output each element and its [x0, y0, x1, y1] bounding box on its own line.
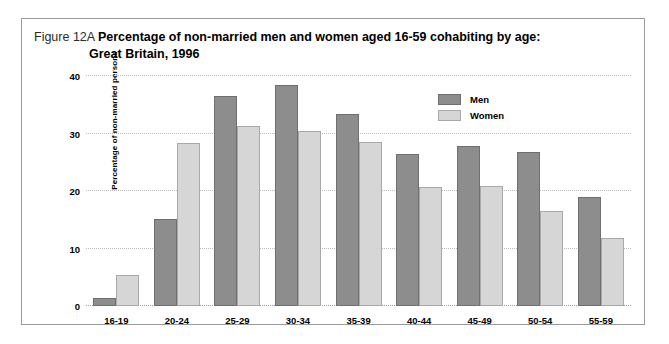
x-tick-label: 35-39 — [328, 315, 389, 326]
bar-men-35-39[interactable] — [336, 114, 359, 306]
bar-group: 16-19 — [86, 76, 147, 306]
legend-swatch-icon — [438, 110, 461, 121]
bar-group: 25-29 — [207, 76, 268, 306]
bar-group: 55-59 — [571, 76, 632, 306]
bar-men-30-34[interactable] — [275, 85, 298, 306]
bar-group: 30-34 — [268, 76, 329, 306]
bar-women-30-34[interactable] — [298, 131, 321, 306]
legend-label: Men — [470, 94, 489, 105]
bar-group: 50-54 — [510, 76, 571, 306]
bar-women-40-44[interactable] — [419, 187, 442, 306]
y-tick-label: 0 — [75, 301, 80, 312]
legend-swatch-icon — [438, 94, 461, 105]
y-tick-label: 10 — [69, 243, 80, 254]
x-tick-label: 55-59 — [571, 315, 632, 326]
figure-title-block: Figure 12A Percentage of non-married men… — [34, 29, 634, 63]
chart-legend: MenWomen — [438, 94, 504, 126]
y-tick-label: 30 — [69, 128, 80, 139]
x-tick-label: 40-44 — [389, 315, 450, 326]
bar-men-25-29[interactable] — [214, 96, 237, 306]
bar-men-16-19[interactable] — [93, 298, 116, 306]
figure-frame: Figure 12A Percentage of non-married men… — [21, 18, 645, 325]
x-tick-label: 20-24 — [147, 315, 208, 326]
bar-men-20-24[interactable] — [154, 219, 177, 306]
x-tick-label: 50-54 — [510, 315, 571, 326]
y-tick-label: 40 — [69, 71, 80, 82]
bar-men-55-59[interactable] — [578, 197, 601, 306]
bar-women-16-19[interactable] — [116, 275, 139, 306]
legend-item-women[interactable]: Women — [438, 110, 504, 121]
bar-groups: 16-1920-2425-2930-3435-3940-4445-4950-54… — [86, 76, 631, 306]
figure-title-line-2: Great Britain, 1996 — [34, 46, 634, 63]
legend-item-men[interactable]: Men — [438, 94, 504, 105]
x-tick-label: 30-34 — [268, 315, 329, 326]
figure-title-line-1: Figure 12A Percentage of non-married men… — [34, 29, 634, 46]
bar-women-45-49[interactable] — [480, 186, 503, 306]
bar-group: 20-24 — [147, 76, 208, 306]
bar-men-40-44[interactable] — [396, 154, 419, 306]
x-tick-label: 16-19 — [86, 315, 147, 326]
bar-women-50-54[interactable] — [540, 211, 563, 306]
x-tick-label: 25-29 — [207, 315, 268, 326]
bar-women-55-59[interactable] — [601, 238, 624, 306]
bar-women-20-24[interactable] — [177, 143, 200, 306]
bar-men-50-54[interactable] — [517, 152, 540, 306]
y-tick-label: 20 — [69, 186, 80, 197]
figure-title-main: Percentage of non-married men and women … — [98, 30, 540, 44]
bar-women-25-29[interactable] — [237, 126, 260, 306]
figure-number: Figure 12A — [34, 30, 94, 44]
figure-title-sub: Great Britain, 1996 — [89, 47, 199, 61]
x-tick-label: 45-49 — [449, 315, 510, 326]
legend-label: Women — [470, 110, 504, 121]
bar-group: 35-39 — [328, 76, 389, 306]
bar-men-45-49[interactable] — [457, 146, 480, 306]
bar-women-35-39[interactable] — [359, 142, 382, 306]
plot-area: Percentage of non-married persons 010203… — [86, 76, 631, 306]
